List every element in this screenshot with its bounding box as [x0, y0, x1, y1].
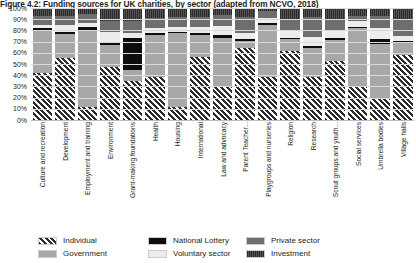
- x-axis-label-cell: Playgroups and nurseries: [258, 122, 278, 214]
- x-axis-label-cell: Grant-making foundations: [123, 122, 143, 214]
- bar-segment-government: [258, 25, 278, 78]
- x-axis-label-cell: Village halls: [393, 122, 413, 214]
- bar-segment-investment: [55, 8, 75, 16]
- x-axis-label-cell: Umbrella bodies: [370, 122, 390, 214]
- legend-item-investment[interactable]: Investment: [246, 247, 376, 260]
- bar-segment-investment: [303, 8, 323, 17]
- bar-segment-investment: [168, 8, 188, 17]
- legend-item-lottery[interactable]: National Lottery: [148, 234, 246, 247]
- bar-segment-investment: [280, 8, 300, 19]
- x-axis-label: Religion: [287, 122, 294, 146]
- legend-swatch-voluntary: [148, 250, 167, 258]
- legend-item-individual[interactable]: Individual: [0, 234, 148, 247]
- bar-segment-investment: [145, 8, 165, 18]
- legend-item-voluntary[interactable]: Voluntary sector: [148, 247, 246, 260]
- y-axis-tick-label: 50%: [13, 61, 27, 68]
- legend-label: Voluntary sector: [173, 249, 230, 258]
- gridline: [31, 8, 414, 9]
- bar-segment-voluntary-sector: [235, 33, 255, 40]
- gridline: [31, 42, 414, 43]
- gridline: [31, 109, 414, 110]
- bar-segment-private-sector: [258, 11, 278, 18]
- bar-segment-individual: [145, 77, 165, 120]
- bar-segment-voluntary-sector: [325, 30, 345, 38]
- y-axis-tick-label: 70%: [13, 38, 27, 45]
- bar-segment-private-sector: [33, 16, 53, 25]
- legend-item-private[interactable]: Private sector: [246, 234, 376, 247]
- x-axis-label: International: [196, 122, 203, 158]
- x-axis-label: Culture and recreation: [39, 122, 46, 187]
- x-axis-label: Housing: [174, 122, 181, 146]
- bar-segment-private-sector: [325, 20, 345, 30]
- y-axis-tick-label: 60%: [13, 49, 27, 56]
- x-axis-label-cell: Social services: [348, 122, 368, 214]
- bar-segment-investment: [33, 8, 53, 16]
- bar-segment-individual: [325, 61, 345, 120]
- figure-root: Figure 4.2: Funding sources for UK chari…: [0, 0, 416, 263]
- bar-segment-investment: [348, 8, 368, 16]
- gridline: [31, 19, 414, 20]
- gridline: [31, 75, 414, 76]
- x-axis-label: Health: [151, 122, 158, 141]
- chart-legend: IndividualNational LotteryPrivate sector…: [0, 234, 416, 263]
- bar-segment-private-sector: [280, 19, 300, 30]
- x-axis-label: Playgroups and nurseries: [264, 122, 271, 197]
- x-axis-label-cell: Culture and recreation: [33, 122, 53, 214]
- x-axis-label-cell: Employment and training: [78, 122, 98, 214]
- bar-segment-private-sector: [55, 16, 75, 25]
- y-axis-tick-label: 30%: [13, 83, 27, 90]
- bar-segment-government: [325, 40, 345, 60]
- legend-label: Private sector: [271, 236, 320, 245]
- gridline: [31, 98, 414, 99]
- x-axis-label-cell: Scout groups and youth...: [325, 122, 345, 214]
- bar-segment-individual: [303, 77, 323, 120]
- x-axis-label: Employment and training: [84, 122, 91, 195]
- bar-segment-investment: [235, 8, 255, 17]
- legend-label: Individual: [63, 236, 97, 245]
- x-axis-label-cell: Development: [55, 122, 75, 214]
- legend-swatch-lottery: [148, 237, 167, 245]
- y-axis-tick-label: 80%: [13, 27, 27, 34]
- x-axis-label: Umbrella bodies: [377, 122, 384, 170]
- plot-area: [31, 8, 414, 120]
- y-axis-tick-label: 10%: [13, 105, 27, 112]
- x-axis-label: Scout groups and youth...: [332, 122, 339, 197]
- bar-segment-individual: [190, 57, 210, 120]
- bar-segment-individual: [258, 77, 278, 120]
- bar-segment-government: [190, 35, 210, 57]
- x-axis-label: Village halls: [399, 122, 406, 157]
- x-axis-label-cell: Housing: [168, 122, 188, 214]
- y-axis: 0%10%20%30%40%50%60%70%80%90%100%: [0, 8, 30, 128]
- x-axis-label-cell: Environment: [100, 122, 120, 214]
- bar-segment-private-sector: [213, 15, 233, 26]
- y-axis-tick-label: 90%: [13, 16, 27, 23]
- x-axis-label: Law and advocacy: [219, 122, 226, 177]
- plot-wrapper: 0%10%20%30%40%50%60%70%80%90%100%: [0, 8, 416, 128]
- legend-row-1: IndividualNational LotteryPrivate sector: [0, 234, 416, 247]
- x-axis-label: Parent Teacher...: [242, 122, 249, 172]
- x-axis-labels: Culture and recreationDevelopmentEmploym…: [31, 122, 414, 214]
- gridline: [31, 64, 414, 65]
- x-axis-label: Social services: [354, 122, 361, 166]
- bar-segment-private-sector: [393, 20, 413, 36]
- x-axis-label: Environment: [106, 122, 113, 159]
- legend-item-government[interactable]: Government: [0, 247, 148, 260]
- bar-segment-investment: [213, 8, 233, 15]
- bar-segment-individual: [213, 86, 233, 120]
- bar-segment-government: [55, 34, 75, 59]
- bar-segment-private-sector: [78, 14, 98, 23]
- bar-segment-individual: [33, 73, 53, 120]
- bar-segment-government: [213, 38, 233, 86]
- bar-segment-private-sector: [370, 16, 390, 28]
- bar-segment-individual: [55, 58, 75, 120]
- bar-segment-voluntary-sector: [280, 30, 300, 38]
- x-axis-label-cell: Parent Teacher...: [235, 122, 255, 214]
- bar-segment-government: [348, 28, 368, 86]
- legend-swatch-individual: [38, 237, 57, 245]
- gridline: [31, 86, 414, 87]
- bar-segment-investment: [370, 8, 390, 16]
- y-axis-tick-label: 100%: [9, 5, 27, 12]
- x-axis-label-cell: Health: [145, 122, 165, 214]
- bar-segment-investment: [190, 8, 210, 17]
- x-axis-label: Research: [309, 122, 316, 150]
